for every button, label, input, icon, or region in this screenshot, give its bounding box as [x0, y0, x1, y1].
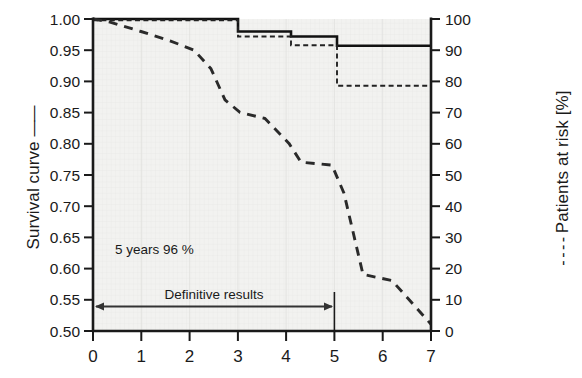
- ytick-right-8: 20: [445, 260, 463, 277]
- annotation-five-year-survival: 5 years 96 %: [115, 242, 194, 257]
- ytick-right-5: 50: [445, 167, 463, 184]
- ytick-right-0: 100: [445, 11, 471, 28]
- ytick-right-9: 10: [445, 291, 463, 308]
- ytick-left-2: 0.90: [50, 73, 81, 90]
- chart-canvas: 1.00 0.95 0.90 0.85 0.80 0.75 0.70 0.65 …: [0, 0, 582, 378]
- ytick-left-6: 0.70: [50, 198, 81, 215]
- ytick-left-4: 0.80: [50, 135, 81, 152]
- ticks-bottom: [93, 331, 431, 341]
- survival-chart-figure: 1.00 0.95 0.90 0.85 0.80 0.75 0.70 0.65 …: [0, 0, 582, 378]
- ytick-left-1: 0.95: [50, 42, 80, 59]
- xtick-7: 7: [426, 347, 435, 366]
- xtick-2: 2: [185, 347, 194, 366]
- ytick-left-10: 0.50: [50, 323, 81, 340]
- xtick-1: 1: [137, 347, 146, 366]
- ytick-left-3: 0.85: [50, 104, 80, 121]
- tick-labels-right: 100 90 80 70 60 50 40 30 20 10 0: [445, 11, 471, 340]
- plot-background: [93, 19, 431, 331]
- xtick-0: 0: [88, 347, 97, 366]
- ytick-left-0: 1.00: [50, 11, 81, 28]
- ytick-right-2: 80: [445, 73, 463, 90]
- ytick-right-3: 70: [445, 104, 463, 121]
- ytick-left-5: 0.75: [50, 167, 80, 184]
- xtick-6: 6: [378, 347, 387, 366]
- ytick-right-1: 90: [445, 42, 463, 59]
- ytick-right-4: 60: [445, 135, 463, 152]
- ytick-left-7: 0.65: [50, 229, 80, 246]
- tick-labels-bottom: 0 1 2 3 4 5 6 7: [88, 347, 435, 366]
- ytick-left-9: 0.55: [50, 291, 80, 308]
- ytick-right-6: 40: [445, 198, 463, 215]
- tick-labels-left: 1.00 0.95 0.90 0.85 0.80 0.75 0.70 0.65 …: [50, 11, 81, 340]
- ticks-right: [431, 19, 440, 331]
- ytick-right-10: 0: [445, 323, 454, 340]
- ticks-left: [84, 19, 93, 331]
- xtick-3: 3: [233, 347, 242, 366]
- annotation-definitive-results: Definitive results: [164, 287, 263, 302]
- ytick-left-8: 0.60: [50, 260, 81, 277]
- xtick-4: 4: [281, 347, 290, 366]
- ytick-right-7: 30: [445, 229, 463, 246]
- xtick-5: 5: [330, 347, 339, 366]
